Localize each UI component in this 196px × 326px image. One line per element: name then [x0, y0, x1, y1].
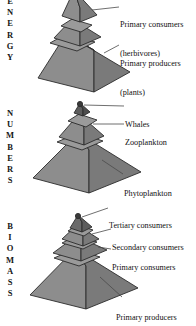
leader-line-whales — [84, 105, 124, 106]
leader-line-tertiary-consumers — [82, 208, 108, 217]
panel-numbers: N U M B E R S Whales — [0, 100, 196, 205]
callout-line-1: Phytoplankton — [124, 189, 172, 199]
callout-line-1: Primary consumers — [120, 20, 183, 30]
callout-line-1: Primary consumers — [112, 263, 175, 273]
callout-primary-producers: Primary producers — [116, 294, 177, 326]
callout-line-2: (plants) — [120, 88, 181, 98]
leader-line-primary-consumers — [92, 7, 119, 10]
apex-knob — [77, 101, 82, 106]
leader-line-primary-producers — [104, 45, 119, 53]
callout-line-1: Zooplankton — [125, 138, 167, 148]
tier-top-left — [62, 0, 80, 22]
panel-energy: E N E R G Y Primary consumers — [0, 0, 196, 100]
panel-biomass: B I O M A S S — [0, 205, 196, 313]
callout-primary-consumers: Primary consumers — [112, 244, 175, 292]
callout-line-1: Primary producers — [120, 59, 181, 69]
apex-knob — [75, 213, 80, 218]
callout-line-1: Primary producers — [116, 313, 177, 323]
callout-zooplankton: Zooplankton — [125, 119, 167, 167]
